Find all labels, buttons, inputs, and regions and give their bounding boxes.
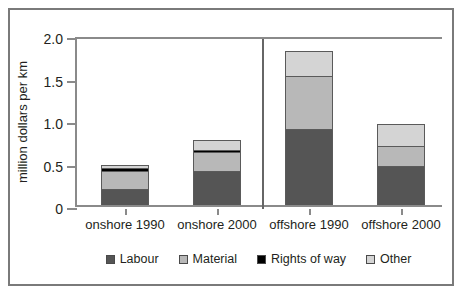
legend-item-Labour[interactable]: Labour [106,252,159,266]
bar-offshore-2000[interactable] [377,124,425,205]
y-tick-mark [67,208,77,210]
chart-figure: million dollars per km 00.51.01.52.0 ons… [0,0,462,294]
legend-swatch-icon [366,255,375,264]
legend-swatch-icon [179,255,188,264]
bar-offshore-1990[interactable] [285,51,333,205]
y-tick-label: 1.0 [23,116,63,132]
legend-label: Other [380,252,411,266]
x-axis-tick [309,209,311,215]
legend-label: Labour [120,252,159,266]
legend-label: Material [193,252,237,266]
bar-segment-Labour[interactable] [377,166,425,205]
x-axis-label: offshore 2000 [341,217,461,232]
y-tick-label: 2.0 [23,31,63,47]
legend-item-Other[interactable]: Other [366,252,411,266]
legend-item-Rights-of-way[interactable]: Rights of way [257,252,346,266]
y-tick-label: 0.5 [23,159,63,175]
bar-segment-Labour[interactable] [101,189,149,205]
bar-onshore-1990[interactable] [101,165,149,205]
legend-item-Material[interactable]: Material [179,252,237,266]
y-tick-label: 1.5 [23,74,63,90]
bar-segment-Material[interactable] [101,171,149,189]
group-divider [262,39,264,209]
y-tick-label: 0 [23,201,63,217]
bar-segment-Material[interactable] [285,76,333,130]
plot-area: 00.51.01.52.0 onshore 1990onshore 2000of… [75,37,442,207]
bar-segment-Labour[interactable] [193,171,241,205]
legend-swatch-icon [106,255,115,264]
x-axis-tick [217,209,219,215]
y-tick-mark [67,166,77,168]
bar-segment-Labour[interactable] [285,129,333,205]
bar-onshore-2000[interactable] [193,140,241,205]
legend-swatch-icon [257,255,266,264]
bar-segment-Material[interactable] [377,146,425,166]
y-tick-mark [67,123,77,125]
chart-legend: LabourMaterialRights of wayOther [75,252,442,266]
y-tick-mark [67,81,77,83]
legend-label: Rights of way [271,252,346,266]
bar-segment-Material[interactable] [193,152,241,171]
bar-segment-Other[interactable] [377,124,425,145]
y-tick-mark [67,38,77,40]
bar-segment-Other[interactable] [285,51,333,76]
x-axis-tick [401,209,403,215]
x-axis-tick [125,209,127,215]
bar-segment-Other[interactable] [193,140,241,149]
